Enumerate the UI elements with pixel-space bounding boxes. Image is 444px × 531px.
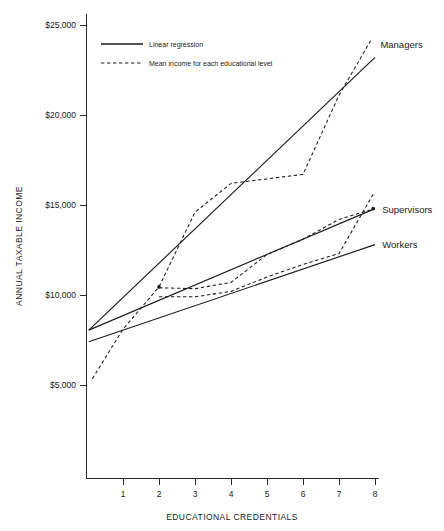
series-node-marker bbox=[157, 285, 161, 289]
y-tick-label: $25,000 bbox=[45, 20, 76, 30]
income-vs-credentials-line-chart: $5,000$10,000$15,000$20,000$25,000 12345… bbox=[0, 0, 444, 531]
legend-label: Linear regression bbox=[149, 41, 203, 49]
x-tick-label: 3 bbox=[193, 489, 198, 499]
x-tick-label: 2 bbox=[157, 489, 162, 499]
y-tick-label: $20,000 bbox=[45, 110, 76, 120]
y-axis-ticks: $5,000$10,000$15,000$20,000$25,000 bbox=[45, 20, 86, 390]
series-line-workers-linear-regression bbox=[89, 245, 375, 342]
series-label-managers: Managers bbox=[380, 39, 422, 50]
chart-figure: $5,000$10,000$15,000$20,000$25,000 12345… bbox=[0, 0, 444, 531]
legend-label: Mean income for each educational level bbox=[149, 60, 273, 67]
series-node-marker bbox=[371, 207, 375, 211]
y-tick-label: $15,000 bbox=[45, 200, 76, 210]
y-axis-title: ANNUAL TAXABLE INCOME bbox=[14, 186, 24, 306]
series-label-supervisors: Supervisors bbox=[382, 204, 432, 215]
x-tick-label: 1 bbox=[121, 489, 126, 499]
series-line-supervisors-linear-regression bbox=[89, 209, 375, 331]
series-line-managers-linear-regression bbox=[89, 57, 375, 330]
series-label-workers: Workers bbox=[382, 239, 417, 250]
y-tick-label: $10,000 bbox=[45, 290, 76, 300]
series-lines bbox=[89, 39, 375, 378]
series-group-labels: ManagersSupervisorsWorkers bbox=[380, 39, 432, 250]
x-axis-ticks: 12345678 bbox=[121, 478, 378, 499]
x-axis-title: EDUCATIONAL CREDENTIALS bbox=[166, 512, 298, 522]
chart-legend: Linear regressionMean income for each ed… bbox=[101, 41, 273, 67]
x-tick-label: 8 bbox=[373, 489, 378, 499]
y-tick-label: $5,000 bbox=[50, 380, 76, 390]
series-line-managers-mean-income bbox=[92, 39, 371, 378]
x-tick-label: 5 bbox=[265, 489, 270, 499]
x-tick-label: 7 bbox=[337, 489, 342, 499]
x-tick-label: 6 bbox=[301, 489, 306, 499]
axes bbox=[86, 14, 379, 478]
x-tick-label: 4 bbox=[229, 489, 234, 499]
